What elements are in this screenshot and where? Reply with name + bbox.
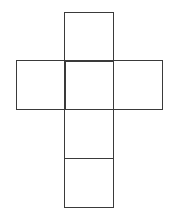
face-left [16, 60, 66, 110]
cube-net-diagram [0, 0, 174, 217]
face-center [64, 60, 114, 110]
face-top [64, 12, 114, 62]
face-right [113, 60, 163, 110]
face-lower [64, 109, 114, 159]
face-bottom [64, 158, 114, 208]
